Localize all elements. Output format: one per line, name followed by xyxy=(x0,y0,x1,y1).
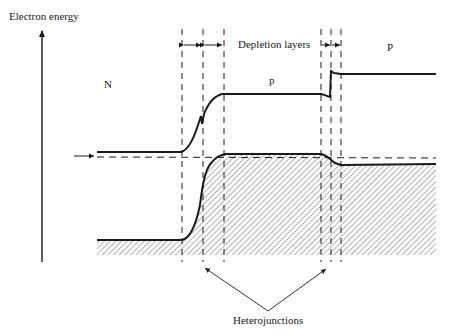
conduction-band-edge xyxy=(97,71,436,152)
band-diagram xyxy=(0,0,454,335)
fermi-level-line xyxy=(97,157,436,158)
region-label-p-middle: p xyxy=(269,74,275,86)
heterojunctions-label: Heterojunctions xyxy=(233,314,303,326)
depletion-layers-label: Depletion layers xyxy=(238,38,310,50)
y-axis-label: Electron energy xyxy=(9,10,79,22)
region-label-n: N xyxy=(104,78,112,90)
heterojunction-pointers xyxy=(205,268,326,311)
region-label-p-right: P xyxy=(387,41,393,53)
